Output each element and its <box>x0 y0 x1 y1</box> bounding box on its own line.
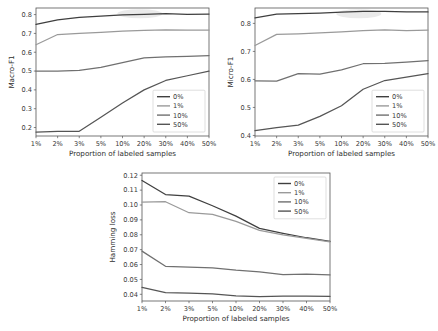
x-tick-label: 20% <box>137 140 152 148</box>
x-axis-title: Proportion of labeled samples <box>69 149 176 158</box>
x-tick-label: 20% <box>252 305 267 313</box>
legend-label-1pct: 1% <box>173 102 183 110</box>
chart-hamming-loss: 0.040.050.060.070.080.090.100.110.121%2%… <box>100 165 340 331</box>
y-tick-label: 0.7 <box>22 30 33 38</box>
x-tick-label: 30% <box>158 140 173 148</box>
y-tick-label: 0.07 <box>123 246 138 254</box>
plot-micro-f1: 0.40.50.60.70.81%2%3%5%10%20%30%40%50%Pr… <box>219 0 438 166</box>
x-tick-label: 10% <box>334 140 349 148</box>
chart-micro-f1: 0.40.50.60.70.81%2%3%5%10%20%30%40%50%Pr… <box>219 0 438 166</box>
y-tick-label: 0.10 <box>123 201 138 209</box>
y-tick-label: 0.4 <box>22 86 33 94</box>
legend-label-50pct: 50% <box>173 121 188 129</box>
legend-label-1pct: 1% <box>392 102 402 110</box>
legend-label-1pct: 1% <box>294 189 304 197</box>
y-tick-label: 0.06 <box>123 261 138 269</box>
scan-artifact <box>336 9 381 18</box>
x-tick-label: 2% <box>160 305 170 313</box>
y-tick-label: 0.3 <box>22 105 33 113</box>
series-line-10pct <box>142 251 330 275</box>
chart-macro-f1: 0.20.30.40.50.60.70.81%2%3%5%10%20%30%40… <box>0 0 219 166</box>
x-tick-label: 3% <box>74 140 84 148</box>
series-line-50pct <box>142 287 330 296</box>
x-tick-label: 1% <box>250 140 260 148</box>
plot-macro-f1: 0.20.30.40.50.60.70.81%2%3%5%10%20%30%40… <box>0 0 219 166</box>
x-axis-title: Proportion of labeled samples <box>182 314 289 323</box>
x-tick-label: 50% <box>421 140 436 148</box>
y-tick-label: 0.11 <box>123 186 138 194</box>
series-line-0pct <box>36 14 209 25</box>
y-tick-label: 0.04 <box>123 291 138 299</box>
x-tick-label: 2% <box>271 140 281 148</box>
x-tick-label: 50% <box>202 140 217 148</box>
x-tick-label: 20% <box>356 140 371 148</box>
series-line-10pct <box>36 56 209 71</box>
y-tick-label: 0.8 <box>22 11 33 19</box>
x-tick-label: 10% <box>229 305 244 313</box>
x-tick-label: 50% <box>323 305 338 313</box>
x-tick-label: 5% <box>315 140 325 148</box>
series-line-1pct <box>255 30 428 46</box>
legend-label-50pct: 50% <box>392 121 407 129</box>
y-axis-title: Hamming loss <box>108 211 117 262</box>
x-tick-label: 3% <box>184 305 194 313</box>
y-tick-label: 0.5 <box>241 104 252 112</box>
x-tick-label: 2% <box>52 140 62 148</box>
series-line-1pct <box>36 30 209 45</box>
x-tick-label: 40% <box>180 140 195 148</box>
legend-label-0pct: 0% <box>173 93 183 101</box>
x-tick-label: 1% <box>31 140 41 148</box>
plot-hamming-loss: 0.040.050.060.070.080.090.100.110.121%2%… <box>100 165 340 331</box>
x-tick-label: 3% <box>293 140 303 148</box>
y-tick-label: 0.08 <box>123 231 138 239</box>
legend-label-0pct: 0% <box>294 180 304 188</box>
y-axis-title: Macro-F1 <box>7 55 16 88</box>
y-tick-label: 0.5 <box>22 67 33 75</box>
legend-label-50pct: 50% <box>294 208 309 216</box>
y-tick-label: 0.6 <box>241 76 252 84</box>
x-tick-label: 5% <box>96 140 106 148</box>
x-tick-label: 5% <box>207 305 217 313</box>
legend-label-0pct: 0% <box>392 93 402 101</box>
legend-label-10pct: 10% <box>392 112 407 120</box>
y-tick-label: 0.12 <box>123 172 138 180</box>
legend-label-10pct: 10% <box>173 112 188 120</box>
x-tick-label: 30% <box>377 140 392 148</box>
x-tick-label: 1% <box>137 305 147 313</box>
x-tick-label: 40% <box>299 305 314 313</box>
y-tick-label: 0.6 <box>22 49 33 57</box>
x-tick-label: 30% <box>276 305 291 313</box>
y-tick-label: 0.09 <box>123 216 138 224</box>
y-tick-label: 0.8 <box>241 20 252 28</box>
y-tick-label: 0.7 <box>241 48 252 56</box>
x-axis-title: Proportion of labeled samples <box>288 149 395 158</box>
y-axis-title: Micro-F1 <box>226 57 235 88</box>
legend-label-10pct: 10% <box>294 198 309 206</box>
x-tick-label: 40% <box>399 140 414 148</box>
x-tick-label: 10% <box>115 140 130 148</box>
y-tick-label: 0.2 <box>22 124 33 132</box>
y-tick-label: 0.05 <box>123 276 138 284</box>
